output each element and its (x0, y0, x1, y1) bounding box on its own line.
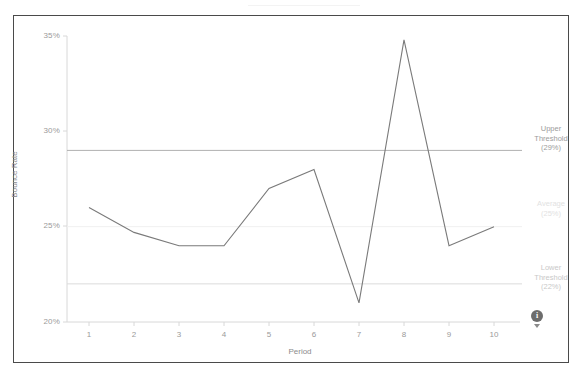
lower-threshold-label-line1: Lower (524, 263, 578, 273)
upper-threshold-label-line1: Upper (524, 124, 578, 134)
chart-screenshot: 35% 30% 25% 20% 1 2 3 4 5 6 7 8 9 10 Per… (0, 0, 584, 378)
x-axis-title: Period (260, 347, 340, 356)
average-label-line2: (25%) (524, 209, 578, 219)
upper-threshold-label-line3: (29%) (524, 143, 578, 153)
upper-threshold-label-line2: Threshold (524, 134, 578, 144)
average-label-line1: Average (524, 199, 578, 209)
lower-threshold-label-line2: Threshold (524, 273, 578, 283)
x-tick-label: 10 (481, 330, 507, 339)
lower-threshold-label: Lower Threshold (22%) (524, 263, 578, 292)
info-icon[interactable]: i (531, 310, 543, 322)
x-tick-label: 7 (346, 330, 372, 339)
x-tick-label: 9 (436, 330, 462, 339)
top-hairline-divider (248, 5, 360, 6)
y-axis-title: Bounce Rate (10, 145, 19, 205)
y-tick-label: 30% (26, 126, 60, 135)
x-tick-label: 6 (301, 330, 327, 339)
lower-threshold-label-line3: (22%) (524, 282, 578, 292)
y-tick-label: 25% (26, 221, 60, 230)
chart-frame (13, 15, 569, 363)
y-tick-label: 35% (26, 31, 60, 40)
x-tick-label: 2 (121, 330, 147, 339)
x-tick-label: 3 (166, 330, 192, 339)
x-tick-label: 8 (391, 330, 417, 339)
x-tick-label: 1 (76, 330, 102, 339)
upper-threshold-label: Upper Threshold (29%) (524, 124, 578, 153)
x-tick-label: 5 (256, 330, 282, 339)
y-tick-label: 20% (26, 317, 60, 326)
info-caret-icon (534, 324, 540, 328)
x-tick-label: 4 (211, 330, 237, 339)
average-label: Average (25%) (524, 199, 578, 218)
